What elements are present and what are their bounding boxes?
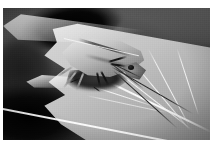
background-dark-mass-left xyxy=(3,32,53,106)
photograph xyxy=(3,8,210,140)
bug-eye xyxy=(128,65,134,70)
leaf-margin-line xyxy=(3,108,190,140)
photo-frame xyxy=(0,0,212,145)
stink-bug xyxy=(57,32,148,95)
leaf-vein-5 xyxy=(176,48,199,115)
